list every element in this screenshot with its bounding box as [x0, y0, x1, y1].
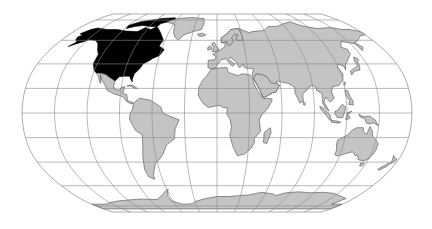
map-background: [0, 0, 432, 229]
world-map: [0, 0, 432, 229]
